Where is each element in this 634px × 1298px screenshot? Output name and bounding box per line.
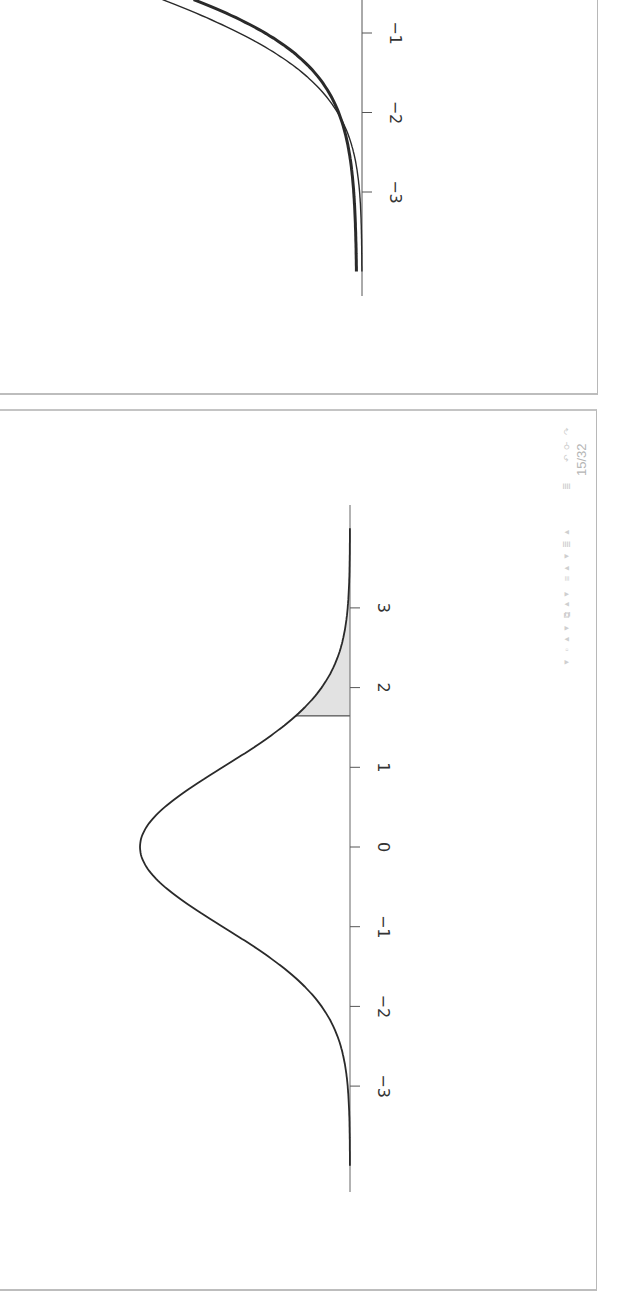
prev-section-icon[interactable]: ◂ bbox=[562, 590, 572, 600]
top-tick-label: −1 bbox=[386, 21, 405, 45]
top-tick-label: −2 bbox=[386, 101, 405, 125]
main-tick-label: 2 bbox=[374, 683, 393, 693]
next-subsection-icon[interactable]: ▸ bbox=[562, 600, 572, 610]
page-current: 15 bbox=[574, 462, 589, 476]
main-tick-label: −3 bbox=[374, 1074, 393, 1098]
appendix-icon[interactable]: ≣ bbox=[562, 482, 572, 490]
page-number: 15/32 bbox=[574, 420, 590, 476]
forward-icon[interactable]: ↷ bbox=[562, 427, 572, 435]
first-frame-icon[interactable]: ◂ bbox=[562, 658, 572, 668]
page-separator: / bbox=[574, 458, 589, 462]
main-tick-label: −1 bbox=[374, 915, 393, 939]
main-tick-label: −2 bbox=[374, 995, 393, 1019]
thin-cdf-curve bbox=[163, 0, 362, 271]
back-icon[interactable]: ↶ bbox=[562, 454, 572, 462]
normal-density-curve bbox=[140, 528, 350, 1166]
doc-icon[interactable]: ≣ bbox=[562, 540, 572, 548]
main-tick-label: 1 bbox=[374, 762, 393, 772]
prev-subsection-icon[interactable]: ◂ bbox=[562, 624, 572, 634]
search-icon[interactable]: ⚲ bbox=[562, 441, 572, 451]
next-doc-icon[interactable]: ▸ bbox=[562, 528, 572, 538]
next-section-icon[interactable]: ▸ bbox=[562, 564, 572, 574]
frame-icon[interactable]: ▫ bbox=[562, 645, 572, 655]
normal-density-chart: −3−2−10123 bbox=[140, 505, 393, 1192]
main-x-axis-ticks: −3−2−10123 bbox=[350, 603, 393, 1098]
top-tick-label: −3 bbox=[386, 180, 405, 204]
charts-canvas: −3−2−1 −3−2−10123 bbox=[0, 0, 634, 1298]
next-frame-icon[interactable]: ▸ bbox=[562, 635, 572, 645]
main-tick-label: 0 bbox=[374, 842, 393, 852]
prev-doc-icon[interactable]: ◂ bbox=[562, 552, 572, 562]
main-tick-label: 3 bbox=[374, 603, 393, 613]
cdf-comparison-chart: −3−2−1 bbox=[163, 0, 406, 296]
page-total: 32 bbox=[574, 443, 589, 457]
thick-cdf-curve bbox=[194, 0, 357, 271]
rejection-region-shade bbox=[296, 528, 350, 716]
top-x-axis-ticks: −3−2−1 bbox=[362, 21, 405, 204]
section-icon[interactable]: ≡ bbox=[562, 576, 572, 581]
subsection-icon[interactable]: ⧉ bbox=[562, 612, 572, 618]
